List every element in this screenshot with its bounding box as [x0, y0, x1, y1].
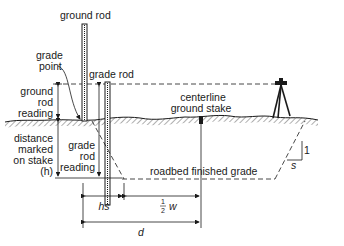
label-ground-rod-reading: reading	[18, 107, 53, 119]
label-half-numerator: 1	[161, 198, 165, 205]
ground-rod	[82, 24, 87, 121]
label-d: d	[138, 226, 145, 238]
label-half-denominator: 2	[161, 207, 165, 214]
grade-point-leader	[58, 66, 80, 119]
centerline-stake	[199, 116, 203, 124]
label-distance-marked: (h)	[40, 165, 53, 177]
label-grade-point: point	[39, 60, 62, 72]
label-slope-rise: 1	[304, 144, 310, 156]
label-grade-rod-reading: reading	[60, 161, 95, 173]
road-staking-diagram: ground rod grade point grade rod ground …	[0, 0, 344, 246]
grade-rod	[105, 82, 110, 205]
diagram-canvas: ground rod grade point grade rod ground …	[0, 0, 344, 246]
label-roadbed-finished-grade: roadbed finished grade	[150, 165, 258, 177]
level-instrument-icon	[273, 78, 290, 118]
label-w: w	[169, 200, 178, 212]
label-ground-rod: ground rod	[60, 9, 111, 21]
label-centerline-stake: ground stake	[171, 102, 232, 114]
right-slope-line	[275, 121, 305, 179]
label-grade-rod: grade rod	[89, 68, 134, 80]
label-slope-run: s	[291, 159, 297, 171]
slope-triangle	[287, 141, 302, 160]
label-hs: hs	[98, 200, 110, 212]
